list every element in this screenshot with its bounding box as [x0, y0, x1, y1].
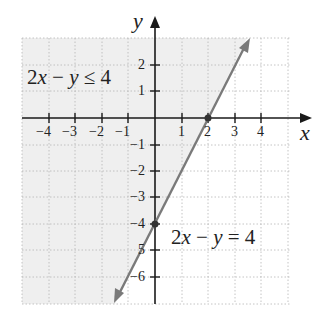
coordinate-plane: [0, 0, 327, 322]
x-axis-label: x: [300, 120, 310, 146]
x-tick-label: −4: [36, 124, 51, 140]
x-tick-label: −2: [89, 124, 104, 140]
y-tick-label: −6: [130, 269, 145, 285]
line-arrow-bottom-icon: [114, 288, 124, 303]
x-tick-label: 4: [257, 124, 264, 140]
inequality-label: 2x − y ≤ 4: [27, 65, 111, 90]
y-tick-label: −3: [130, 189, 145, 205]
x-tick-label: 1: [178, 124, 185, 140]
x-tick-label: 2: [204, 124, 211, 140]
equation-label: 2x − y = 4: [171, 225, 255, 250]
y-tick-label: −4: [130, 216, 145, 232]
x-intercept-point: [205, 115, 212, 122]
y-tick-label: −2: [130, 163, 145, 179]
y-tick-label: −1: [130, 137, 145, 153]
x-tick-label: −1: [115, 124, 130, 140]
y-axis-label: y: [133, 8, 143, 34]
y-tick-label: 5: [138, 242, 145, 258]
x-tick-label: 3: [231, 124, 238, 140]
x-tick-label: −3: [62, 124, 77, 140]
y-tick-label: 2: [138, 57, 145, 73]
y-intercept-point: [152, 221, 159, 228]
y-tick-label: 1: [138, 83, 145, 99]
y-axis-arrow-icon: [150, 16, 160, 28]
